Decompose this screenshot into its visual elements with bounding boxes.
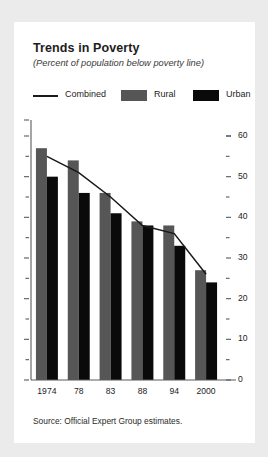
x-tick-label-2000: 2000 [190, 386, 222, 396]
y-tick-label-20: 20 [238, 293, 248, 303]
x-tick-label-88: 88 [127, 386, 159, 396]
y-tick-label-0: 0 [238, 374, 243, 384]
bar-urban-94 [174, 246, 185, 380]
x-tick-label-1974: 1974 [31, 386, 63, 396]
y-tick-label-60: 60 [238, 130, 248, 140]
chart-plot-area [14, 22, 255, 443]
bar-urban-1974 [47, 177, 58, 380]
bar-rural-2000 [195, 270, 206, 380]
y-tick-label-10: 10 [238, 333, 248, 343]
source-note: Source: Official Expert Group estimates. [33, 416, 182, 426]
bar-rural-88 [131, 221, 142, 380]
y-tick-label-30: 30 [238, 252, 248, 262]
chart-card: Trends in Poverty (Percent of population… [14, 22, 255, 443]
bar-urban-2000 [206, 282, 217, 380]
x-tick-label-94: 94 [158, 386, 190, 396]
x-tick-label-83: 83 [95, 386, 127, 396]
bar-urban-88 [142, 225, 153, 380]
bar-rural-1974 [36, 148, 47, 380]
x-tick-label-78: 78 [63, 386, 95, 396]
bar-urban-83 [111, 213, 122, 380]
bar-rural-94 [163, 225, 174, 380]
bar-urban-78 [79, 193, 90, 380]
y-tick-label-40: 40 [238, 211, 248, 221]
bars-group [36, 148, 217, 380]
y-tick-label-50: 50 [238, 171, 248, 181]
bar-rural-78 [68, 160, 79, 380]
bar-rural-83 [100, 193, 111, 380]
